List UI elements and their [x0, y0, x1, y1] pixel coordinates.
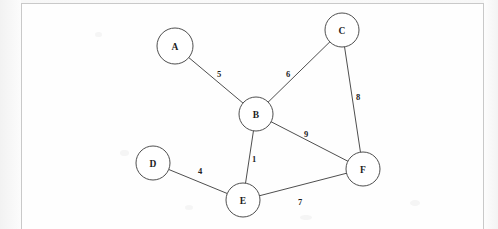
graph-diagram: ABCDEF 5689147	[0, 0, 498, 229]
node-label-e: E	[240, 196, 246, 206]
edge-weight-layer: 5689147	[198, 69, 360, 207]
node-label-a: A	[172, 42, 179, 52]
graph-edge-e-f[interactable]	[259, 173, 346, 195]
node-label-b: B	[253, 110, 260, 120]
edge-weight-label-d-e: 4	[198, 166, 203, 176]
graph-node-a[interactable]: A	[157, 28, 193, 64]
edge-weight-label-a-b: 5	[217, 69, 221, 79]
graph-node-c[interactable]: C	[325, 13, 359, 47]
graph-node-b[interactable]: B	[239, 97, 273, 131]
graph-node-f[interactable]: F	[346, 152, 380, 186]
graph-node-d[interactable]: D	[136, 146, 170, 180]
edge-weight-label-b-c: 6	[286, 69, 290, 79]
node-label-f: F	[360, 165, 366, 175]
edge-weight-label-e-f: 7	[298, 197, 303, 207]
node-label-c: C	[339, 26, 346, 36]
graph-edge-b-f[interactable]	[271, 122, 348, 161]
graph-edge-a-b[interactable]	[189, 58, 243, 103]
node-label-d: D	[150, 159, 157, 169]
graph-edge-b-c[interactable]	[268, 42, 330, 102]
edge-weight-label-c-f: 8	[356, 92, 360, 102]
node-layer: ABCDEF	[136, 13, 380, 217]
edge-weight-label-b-e: 1	[252, 154, 256, 164]
graph-node-e[interactable]: E	[226, 183, 260, 217]
edge-weight-label-b-f: 9	[304, 129, 308, 139]
